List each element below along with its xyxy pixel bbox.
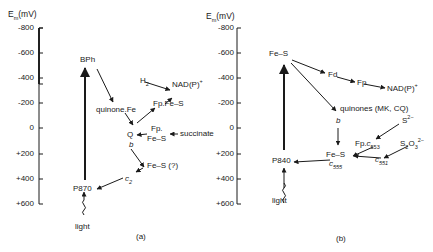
node-fp-fes: Fp.Fe–S <box>153 100 184 108</box>
node-h2: H2 <box>140 77 149 85</box>
node-p840: P840 <box>272 157 291 165</box>
tick-a-2: -400 <box>8 74 34 82</box>
node-light-b: light <box>272 197 287 205</box>
node-b-a: b <box>129 141 133 149</box>
tick-b-1: -600 <box>208 49 234 57</box>
node-s2o3: S2O32− <box>400 140 424 148</box>
tick-b-3: -200 <box>208 99 234 107</box>
node-quinones: quinones (MK, CQ) <box>340 105 408 113</box>
node-c555: c555 <box>329 160 342 168</box>
node-fd: Fd <box>328 71 337 79</box>
tick-b-0: -800 <box>208 24 234 32</box>
tick-a-7: +600 <box>8 200 34 208</box>
node-fp-b: Fp <box>357 79 366 87</box>
tick-a-4: 0 <box>8 124 34 132</box>
node-fp-a: Fp. <box>151 125 163 133</box>
tick-a-1: -600 <box>8 49 34 57</box>
tick-a-5: +200 <box>8 150 34 158</box>
axis-title-b: Em(mV) <box>206 12 235 21</box>
tick-b-5: +200 <box>208 150 234 158</box>
node-nadp-a: NAD(P)+ <box>172 81 203 89</box>
node-p870: P870 <box>73 185 92 193</box>
node-c2: c2 <box>125 175 132 183</box>
node-fes-mid: Fe–S <box>326 151 345 159</box>
node-fes-a: Fe–S <box>147 135 166 143</box>
node-nadp-b: NAD(P)+ <box>387 85 418 93</box>
light-squiggle-a <box>83 200 86 215</box>
tick-a-6: +400 <box>8 175 34 183</box>
tick-b-7: +600 <box>208 200 234 208</box>
caption-a: (a) <box>136 233 146 241</box>
node-succinate: succinate <box>180 130 214 138</box>
tick-a-3: -200 <box>8 99 34 107</box>
node-quinone-fe: quinone.Fe <box>96 106 136 114</box>
node-bph: BPh <box>80 56 95 64</box>
node-q: Q <box>127 131 133 139</box>
node-b-b: b <box>336 117 340 125</box>
tick-a-0: -800 <box>8 24 34 32</box>
node-fes-top: Fe–S <box>269 50 288 58</box>
caption-b: (b) <box>336 235 346 243</box>
node-light-a: light <box>75 223 90 231</box>
axis-title-a: Em(mV) <box>8 10 37 19</box>
tick-b-6: +400 <box>208 175 234 183</box>
node-s2: S2− <box>402 117 414 125</box>
node-fp-c553: Fp.c553 <box>355 140 380 148</box>
node-c551: c551 <box>375 156 388 164</box>
tick-b-2: -400 <box>208 74 234 82</box>
node-fes-question: Fe–S (?) <box>147 162 178 170</box>
